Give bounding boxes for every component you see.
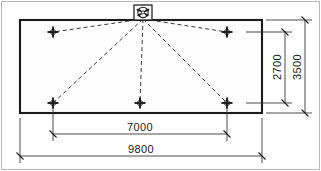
dimension-3500-label: 3500 [291,54,303,80]
dimension-9800-label: 9800 [128,143,154,155]
dimension-7000-label: 7000 [127,121,153,133]
drawing-svg: 2700 3500 7000 9800 [0,0,321,171]
ceiling-fan-symbol [134,5,152,20]
dimension-2700-label: 2700 [271,54,283,80]
technical-drawing-canvas: 2700 3500 7000 9800 [0,0,321,171]
